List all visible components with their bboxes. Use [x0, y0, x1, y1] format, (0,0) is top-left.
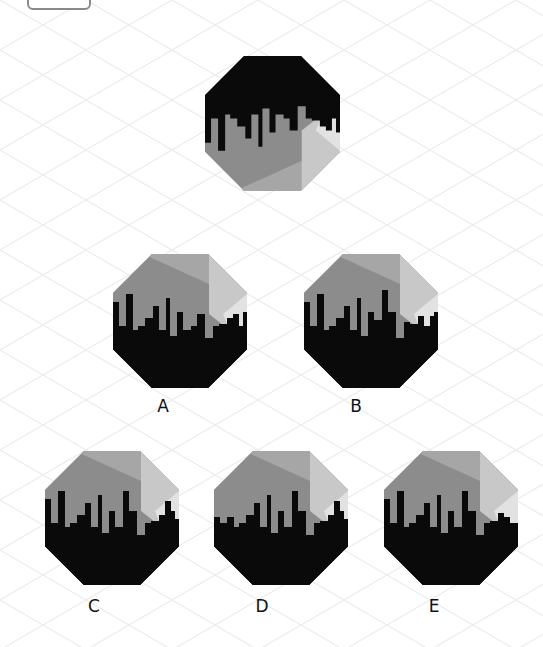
option-label-a: A — [148, 396, 178, 416]
option-figure-e[interactable] — [384, 451, 518, 585]
option-figure-d[interactable] — [214, 451, 348, 585]
top-tab-button[interactable] — [27, 0, 91, 10]
option-figure-c[interactable] — [45, 451, 179, 585]
option-label-b: B — [341, 396, 371, 416]
option-label-d: D — [247, 596, 277, 616]
stem-figure[interactable] — [205, 56, 340, 191]
option-label-e: E — [419, 596, 449, 616]
option-label-c: C — [79, 596, 109, 616]
option-figure-a[interactable] — [113, 254, 247, 388]
option-figure-b[interactable] — [304, 254, 438, 388]
